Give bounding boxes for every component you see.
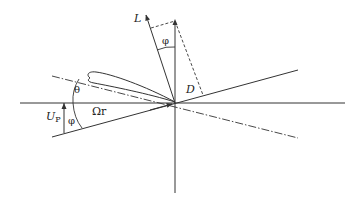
omega-r-label: Ωr — [92, 105, 107, 118]
airfoil-shape — [88, 72, 175, 102]
resultant-velocity-arrow — [150, 104, 172, 110]
drag-label: D — [185, 83, 195, 96]
up-subscript: P — [55, 115, 61, 124]
resultant-force-arrowhead — [173, 19, 178, 25]
phi-label-bottom: φ — [68, 115, 75, 126]
blade-element-diagram: L φ D θ φ Ωr UP — [0, 0, 356, 203]
phi-label-top: φ — [162, 35, 169, 46]
resultant-force-dashed-top — [151, 21, 175, 28]
inflow-velocity-arrowhead — [62, 103, 67, 109]
up-label: UP — [46, 110, 61, 124]
phi-angle-arc-top — [157, 47, 175, 50]
lift-label: L — [133, 12, 141, 25]
theta-label: θ — [74, 84, 80, 95]
